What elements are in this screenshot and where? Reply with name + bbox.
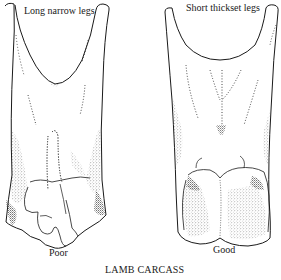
good-rating-label: Good: [213, 244, 235, 255]
carcass-illustrations: [0, 0, 281, 280]
poor-carcass-shading: [6, 84, 105, 225]
good-panel-heading: Short thickset legs: [186, 2, 260, 13]
poor-rating-label: Poor: [49, 247, 68, 258]
poor-carcass-drawing: [5, 3, 109, 248]
lamb-carcass-figure: Long narrow legs Short thickset legs Poo…: [0, 0, 281, 280]
poor-panel-heading: Long narrow legs: [24, 5, 95, 16]
figure-caption: LAMB CARCASS: [105, 264, 184, 275]
